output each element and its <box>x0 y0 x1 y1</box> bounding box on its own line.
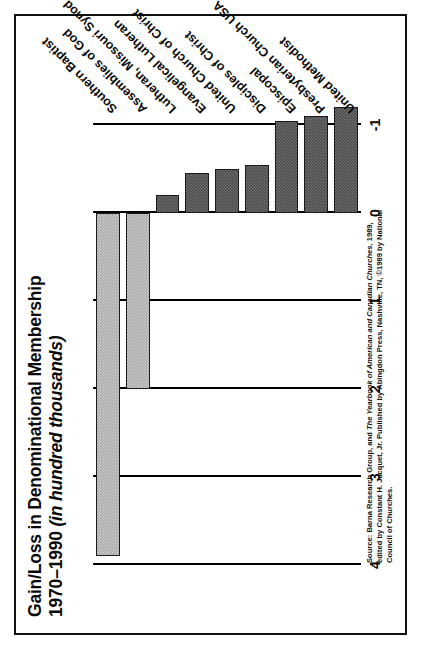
axis-tick-label--1: -1 <box>367 118 383 130</box>
bar-lutheran-missouri-synod <box>155 195 179 213</box>
source-segment-italic: The Yearbook of American and Canadian Ch… <box>365 243 374 430</box>
chart-title-line-2: 1970–1990 (in hundred thousands) <box>45 187 66 617</box>
figure-frame: Gain/Loss in Denominational Membership 1… <box>14 14 407 635</box>
bar-evangelical-lutheran <box>185 173 209 213</box>
bar-presbyterian-church-usa <box>304 116 328 213</box>
chart-title-units: (in hundred thousands) <box>45 335 65 526</box>
bar-united-church-of-christ <box>215 169 239 213</box>
bar-episcopal <box>274 120 298 212</box>
bar-disciples-of-christ <box>244 164 268 212</box>
chart-title: Gain/Loss in Denominational Membership 1… <box>25 187 66 617</box>
rotated-chart-stage: Gain/Loss in Denominational Membership 1… <box>21 25 401 625</box>
source-note: Source: Barna Research Group, and The Ye… <box>365 203 395 563</box>
chart-title-line-1: Gain/Loss in Denominational Membership <box>25 187 46 617</box>
bar-united-methodist <box>334 107 358 213</box>
gridline-3 <box>93 475 361 477</box>
figure-page: Gain/Loss in Denominational Membership 1… <box>0 0 423 651</box>
bar-southern-baptist <box>95 213 119 556</box>
plot-area: 43210-1 Southern BaptistAssemblies of Go… <box>93 125 361 565</box>
chart-title-years: 1970–1990 <box>45 526 65 616</box>
source-segment-1: Source: Barna Research Group, and <box>365 430 374 563</box>
gridline-4 <box>93 563 361 565</box>
bar-assemblies-of-god <box>125 213 149 389</box>
